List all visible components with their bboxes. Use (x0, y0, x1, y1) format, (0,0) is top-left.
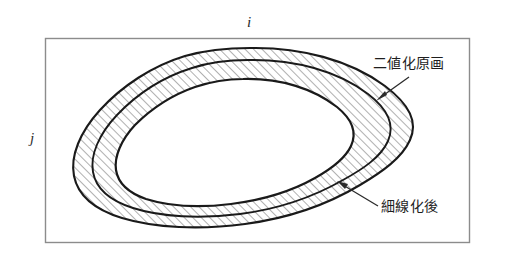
axis-label-i: i (247, 15, 251, 30)
axis-label-j: j (30, 131, 34, 146)
diagram-canvas (0, 0, 505, 257)
callout-label-binary-original: 二値化原画 (373, 56, 445, 71)
callout-label-after-thinning: 細線化後 (381, 199, 438, 214)
figure-root: i j 二値化原画 細線化後 (0, 0, 505, 257)
